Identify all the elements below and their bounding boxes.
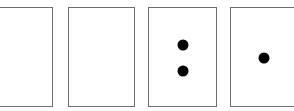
card-2	[68, 7, 135, 107]
card-3	[148, 7, 217, 107]
dot-icon	[178, 66, 189, 77]
dot-icon	[259, 53, 270, 64]
dot-icon	[178, 40, 189, 51]
card-1	[0, 7, 53, 107]
card-4	[230, 7, 294, 107]
